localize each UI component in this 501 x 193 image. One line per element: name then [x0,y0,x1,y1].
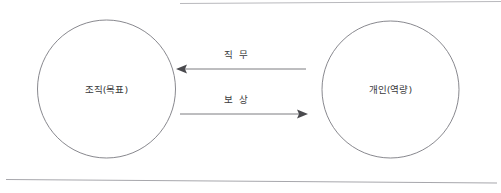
relationship-diagram: 조직(목표) 개인(역량) 직 무 보 상 [0,0,501,193]
diagram-page: 조직(목표) 개인(역량) 직 무 보 상 [0,0,501,193]
reward-edge-label: 보 상 [224,94,250,105]
bottom-rule-line [6,180,497,184]
organization-node-label: 조직(목표) [85,84,128,95]
individual-node-label: 개인(역량) [369,84,412,95]
job-edge-label: 직 무 [224,49,250,60]
top-rule-line [180,2,501,4]
